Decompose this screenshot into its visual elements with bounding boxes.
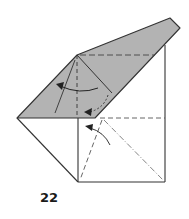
origami-step-diagram [0,0,189,219]
step-number: 22 [40,190,58,205]
colored-flap [17,18,180,118]
left-triangle-flap [17,118,78,182]
